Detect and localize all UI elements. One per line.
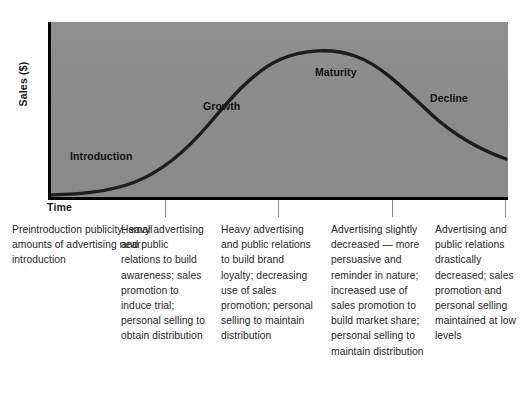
sales-curve-path: [51, 51, 506, 195]
chart-area: Sales ($) Time Introduction Growth Matur…: [0, 0, 530, 210]
description-column-maturity: Advertising slightly decreased — more pe…: [331, 222, 431, 359]
x-axis-label: Time: [47, 201, 72, 213]
description-column-introduction: Heavy advertising and public relations t…: [121, 222, 207, 344]
description-columns: Preintroduction publicity; small amounts…: [0, 222, 530, 417]
sales-curve-svg: [51, 22, 508, 198]
stage-divider-4: [505, 200, 506, 217]
stage-divider-3: [392, 200, 393, 217]
y-axis-label: Sales ($): [17, 39, 29, 129]
description-column-decline: Advertising and public relations drastic…: [435, 222, 529, 344]
stage-divider-1: [165, 200, 166, 217]
stage-label-decline: Decline: [430, 92, 468, 104]
description-column-growth: Heavy advertising and public relations t…: [221, 222, 313, 344]
stage-label-growth: Growth: [203, 100, 240, 112]
stage-label-maturity: Maturity: [315, 66, 357, 78]
y-axis-line: [48, 22, 51, 200]
stage-label-introduction: Introduction: [70, 150, 132, 162]
plot-region: [51, 22, 508, 198]
product-life-cycle-figure: Sales ($) Time Introduction Growth Matur…: [0, 0, 530, 417]
stage-divider-2: [278, 200, 279, 217]
